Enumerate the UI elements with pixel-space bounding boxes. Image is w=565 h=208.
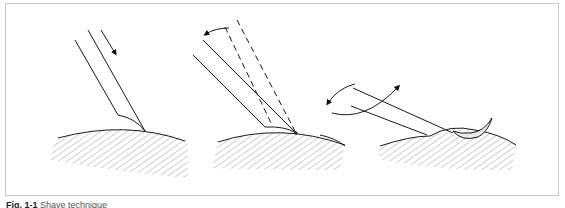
blade-3 <box>351 88 453 135</box>
panel-3 <box>320 84 516 170</box>
blade-2 <box>193 40 296 133</box>
arrow-rotate-left-icon <box>328 84 355 103</box>
arrow-rotate-right-icon <box>332 87 398 115</box>
arrow-down-icon <box>101 30 115 53</box>
shave-technique-illustration <box>0 0 565 208</box>
caption-text: Shave technique <box>40 200 107 208</box>
blade-2-previous-position <box>225 20 296 133</box>
skin-surface-3 <box>378 128 516 170</box>
skin-surface-1 <box>50 129 188 178</box>
figure-caption: Fig. 1-1 Shave technique <box>6 200 107 208</box>
panel-2 <box>193 20 345 170</box>
caption-label: Fig. 1-1 <box>6 200 38 208</box>
panel-1 <box>50 30 188 178</box>
